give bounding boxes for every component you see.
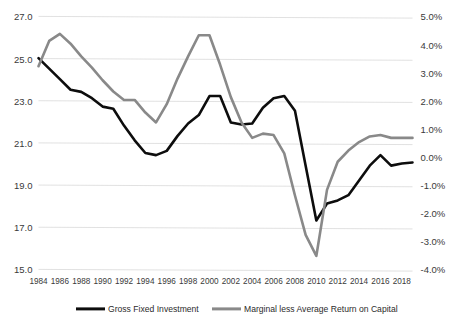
y-axis-left-tick-label: 23.0 <box>14 96 33 107</box>
y-axis-right-tick-label: -1.0% <box>421 180 446 191</box>
y-axis-right-labels: -4.0%-3.0%-2.0%-1.0%0.0%1.0%2.0%3.0%4.0%… <box>421 11 446 275</box>
y-axis-right-tick-label: 2.0% <box>421 96 443 107</box>
y-axis-left-labels: 15.017.019.021.023.025.027.0 <box>14 11 33 275</box>
x-axis-tick-label: 2006 <box>264 277 283 286</box>
legend-label: Gross Fixed Investment <box>108 304 199 314</box>
gridline <box>39 59 413 61</box>
chart-container: 15.017.019.021.023.025.027.0 -4.0%-3.0%-… <box>0 0 450 327</box>
gridline <box>39 227 413 229</box>
y-axis-right-tick-label: 0.0% <box>421 152 443 163</box>
y-axis-left-tick-label: 19.0 <box>14 180 33 191</box>
chart-legend: Gross Fixed InvestmentMarginal less Aver… <box>76 304 398 314</box>
x-axis-tick-label: 2016 <box>371 277 390 286</box>
y-axis-left-tick-label: 17.0 <box>14 222 33 233</box>
x-axis-tick-label: 1990 <box>94 277 113 286</box>
x-axis-labels: 1984198619881990199219941996199820002002… <box>29 277 411 286</box>
y-axis-right-tick-label: 1.0% <box>421 124 443 135</box>
y-axis-left-tick-label: 21.0 <box>14 138 33 149</box>
x-axis-tick-label: 1984 <box>29 277 48 286</box>
x-axis-tick-label: 1998 <box>179 277 198 286</box>
y-axis-right-tick-label: 3.0% <box>421 68 443 79</box>
x-axis-tick-label: 1992 <box>115 277 134 286</box>
x-axis-tick-label: 2008 <box>286 277 305 286</box>
y-axis-right-tick-label: -2.0% <box>421 208 446 219</box>
x-axis-tick-label: 2018 <box>393 277 412 286</box>
gridline <box>39 16 413 18</box>
y-axis-left-tick-label: 15.0 <box>14 264 33 275</box>
x-axis-tick-label: 2012 <box>329 277 348 286</box>
x-axis-tick-label: 2014 <box>350 277 369 286</box>
series-lines <box>39 34 413 256</box>
x-axis-tick-label: 2004 <box>243 277 262 286</box>
y-axis-left-tick-label: 25.0 <box>14 54 33 65</box>
x-axis-tick-label: 1996 <box>158 277 177 286</box>
x-axis-tick-label: 2010 <box>307 277 326 286</box>
x-axis-tick-label: 1994 <box>136 277 155 286</box>
y-axis-left-tick-label: 27.0 <box>14 11 33 22</box>
x-axis-tick-label: 1986 <box>51 277 70 286</box>
x-axis-tick-label: 2000 <box>200 277 219 286</box>
x-axis-tick-label: 2002 <box>222 277 241 286</box>
y-axis-right-tick-label: -3.0% <box>421 236 446 247</box>
y-axis-right-tick-label: 4.0% <box>421 40 443 51</box>
x-axis-tick-label: 1988 <box>72 277 91 286</box>
gridline <box>39 269 413 271</box>
y-axis-right-tick-label: -4.0% <box>421 264 446 275</box>
y-axis-right-tick-label: 5.0% <box>421 11 443 22</box>
legend-label: Marginal less Average Return on Capital <box>244 304 398 314</box>
series-line <box>39 34 413 256</box>
line-chart-plot: 15.017.019.021.023.025.027.0 -4.0%-3.0%-… <box>0 0 450 327</box>
